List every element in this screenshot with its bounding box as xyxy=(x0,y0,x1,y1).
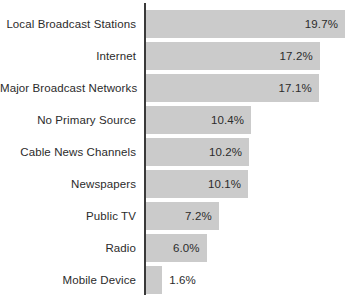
bar-value-label: 7.2% xyxy=(185,202,212,230)
bar-value-label: 19.7% xyxy=(305,10,338,38)
category-label: No Primary Source xyxy=(0,106,136,134)
category-label: Major Broadcast Networks xyxy=(0,74,136,102)
bar: 10.4% xyxy=(146,106,251,134)
horizontal-bar-chart: Local Broadcast Stations19.7%Internet17.… xyxy=(0,0,355,302)
bar: 6.0% xyxy=(146,234,207,262)
bar-row: Mobile Device1.6% xyxy=(0,266,355,294)
bar-value-label: 6.0% xyxy=(173,234,200,262)
bar-row: Local Broadcast Stations19.7% xyxy=(0,10,355,38)
category-label: Newspapers xyxy=(0,170,136,198)
category-label: Local Broadcast Stations xyxy=(0,10,136,38)
bar-value-label: 1.6% xyxy=(169,266,196,294)
category-label: Mobile Device xyxy=(0,266,136,294)
bar-row: No Primary Source10.4% xyxy=(0,106,355,134)
category-label: Public TV xyxy=(0,202,136,230)
category-label: Internet xyxy=(0,42,136,70)
bar: 10.2% xyxy=(146,138,249,166)
bar: 1.6% xyxy=(146,266,162,294)
bar-row: Public TV7.2% xyxy=(0,202,355,230)
bar-row: Major Broadcast Networks17.1% xyxy=(0,74,355,102)
bar-fill xyxy=(146,266,162,294)
bar-value-label: 10.1% xyxy=(208,170,241,198)
bars-area: Local Broadcast Stations19.7%Internet17.… xyxy=(0,0,355,302)
bar: 19.7% xyxy=(146,10,345,38)
bar-value-label: 17.2% xyxy=(280,42,313,70)
bar-row: Radio6.0% xyxy=(0,234,355,262)
bar-value-label: 17.1% xyxy=(279,74,312,102)
bar-value-label: 10.4% xyxy=(211,106,244,134)
bar: 17.1% xyxy=(146,74,319,102)
bar: 10.1% xyxy=(146,170,248,198)
bar: 7.2% xyxy=(146,202,219,230)
bar-value-label: 10.2% xyxy=(209,138,242,166)
category-label: Radio xyxy=(0,234,136,262)
bar-row: Newspapers10.1% xyxy=(0,170,355,198)
bar-row: Cable News Channels10.2% xyxy=(0,138,355,166)
category-label: Cable News Channels xyxy=(0,138,136,166)
bar-row: Internet17.2% xyxy=(0,42,355,70)
bar: 17.2% xyxy=(146,42,320,70)
